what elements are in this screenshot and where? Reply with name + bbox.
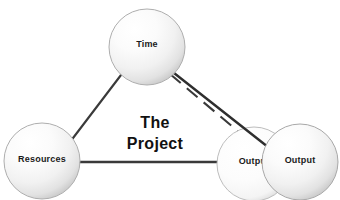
time-label: Time [136,39,158,49]
center-title-line2: Project [127,135,184,152]
center-title: The Project [127,114,184,152]
node-time[interactable]: Time [109,9,185,85]
center-title-line1: The [140,114,169,131]
connector-time-output-back-dashed [170,74,240,133]
node-resources[interactable]: Resources [4,123,80,199]
connector-time-resources [70,75,121,142]
resources-label: Resources [18,154,66,164]
diagram-svg-surface: Output Output Time Resources The Project [0,0,340,200]
project-triangle-diagram: Output Output Time Resources The Project [0,0,340,200]
connector-time-output-front [174,73,268,147]
output-front-label: Output [285,155,316,165]
node-output-front[interactable]: Output [262,124,338,200]
